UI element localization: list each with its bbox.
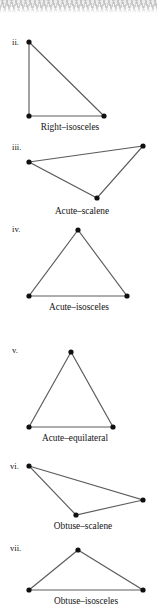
triangle-item: v.Acute–equilateral [12, 345, 116, 443]
triangle-outline [29, 550, 143, 590]
triangle-vertex-dot [140, 587, 145, 592]
triangle-vertex-dot [124, 293, 129, 298]
triangle-vertex-dot [26, 463, 31, 468]
triangle-index-label: vi. [10, 461, 19, 471]
triangle-index-label: ii. [12, 37, 19, 47]
triangle-vertex-dot [73, 512, 78, 517]
triangle-outline [29, 42, 104, 116]
triangle-vertex-dot [26, 39, 31, 44]
triangle-index-label: iii. [12, 142, 21, 152]
triangle-vertex-dot [26, 293, 31, 298]
triangle-item: vii.Obtuse–isosceles [10, 543, 146, 606]
triangle-diagram-canvas: ii.Right–isoscelesiii.Acute–scaleneiv.Ac… [0, 0, 157, 610]
triangle-caption: Acute–scalene [55, 206, 109, 216]
triangle-outline [29, 230, 127, 296]
triangle-outline [29, 352, 113, 427]
triangle-outline [29, 146, 143, 198]
triangle-vertex-dot [26, 113, 31, 118]
triangle-vertex-dot [94, 195, 99, 200]
triangle-vertex-dot [110, 424, 115, 429]
triangle-item: ii.Right–isosceles [12, 37, 107, 132]
triangle-item: vi.Obtuse–scalene [10, 461, 146, 531]
triangle-item: iv.Acute–isosceles [12, 224, 130, 312]
triangle-vertex-dot [75, 227, 80, 232]
triangle-index-label: iv. [12, 224, 20, 234]
triangles-group: ii.Right–isoscelesiii.Acute–scaleneiv.Ac… [10, 37, 146, 606]
triangle-caption: Right–isosceles [41, 122, 100, 132]
triangle-vertex-dot [68, 349, 73, 354]
triangle-vertex-dot [26, 587, 31, 592]
triangle-index-label: v. [12, 345, 18, 355]
triangle-caption: Obtuse–scalene [54, 521, 112, 531]
triangle-caption: Acute–equilateral [42, 433, 108, 443]
triangle-figure-panel: ii.Right–isoscelesiii.Acute–scaleneiv.Ac… [0, 0, 157, 610]
triangle-item: iii.Acute–scalene [12, 142, 146, 216]
triangle-vertex-dot [75, 547, 80, 552]
triangle-caption: Acute–isosceles [49, 302, 109, 312]
triangle-outline [29, 466, 143, 515]
triangle-vertex-dot [140, 143, 145, 148]
triangle-vertex-dot [26, 159, 31, 164]
triangle-vertex-dot [140, 497, 145, 502]
triangle-vertex-dot [26, 424, 31, 429]
triangle-caption: Obtuse–isosceles [54, 596, 118, 606]
triangle-vertex-dot [101, 113, 106, 118]
triangle-index-label: vii. [10, 543, 21, 553]
